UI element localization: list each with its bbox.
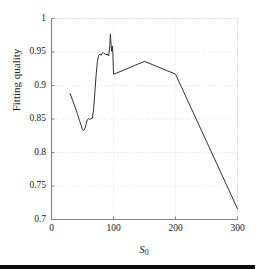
figure-panel: Fitting quality S0 0.70.750.80.850.90.95… xyxy=(0,0,255,269)
x-tick-label: 300 xyxy=(218,223,256,233)
x-axis-title: S0 xyxy=(51,243,237,257)
x-tick-label: 200 xyxy=(156,223,196,233)
y-tick-label: 0.8 xyxy=(0,147,46,157)
x-tick-label: 100 xyxy=(94,223,134,233)
bottom-edge-bar xyxy=(0,265,255,269)
y-tick-label: 0.95 xyxy=(0,46,46,56)
y-tick-label: 0.75 xyxy=(0,180,46,190)
x-axis-title-subscript: 0 xyxy=(145,248,149,257)
data-series-line xyxy=(70,34,237,209)
y-tick-label: 1 xyxy=(0,13,46,23)
x-tick-label: 0 xyxy=(32,223,72,233)
y-tick-label: 0.85 xyxy=(0,113,46,123)
y-tick-label: 0.9 xyxy=(0,80,46,90)
